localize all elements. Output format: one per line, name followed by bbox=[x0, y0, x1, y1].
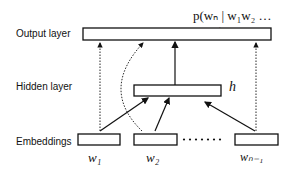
arrow-wn1-to-hidden bbox=[205, 102, 255, 131]
output-layer-box bbox=[83, 28, 271, 40]
embedding-box-w1 bbox=[78, 134, 120, 145]
embedding-box-w2 bbox=[134, 134, 177, 145]
ellipsis-dots bbox=[183, 138, 221, 140]
diagram-canvas bbox=[0, 0, 304, 171]
arrow-w1-to-hidden bbox=[100, 98, 148, 131]
arrow-w2-to-hidden bbox=[155, 98, 169, 131]
embedding-box-wn-1 bbox=[235, 134, 278, 145]
hidden-layer-box bbox=[134, 85, 221, 96]
